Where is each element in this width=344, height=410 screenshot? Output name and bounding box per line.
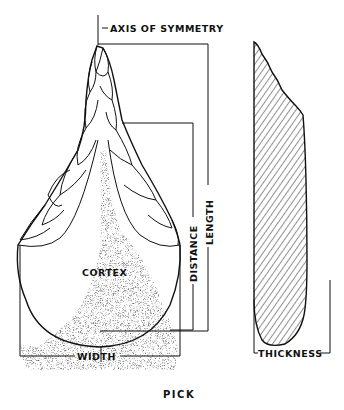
pick-diagram: AXIS OF SYMMETRY [0, 0, 344, 410]
axis-label: AXIS OF SYMMETRY [110, 23, 224, 34]
cortex-label: CORTEX [82, 267, 127, 278]
thickness-label: THICKNESS [258, 348, 323, 359]
pick-face-view: CORTEX [17, 46, 183, 370]
length-label: LENGTH [204, 199, 215, 245]
cortex-area [18, 125, 183, 370]
figure-caption: PICK [163, 389, 195, 400]
width-label: WIDTH [77, 351, 116, 362]
flake-scars [20, 46, 178, 245]
pick-side-profile [254, 42, 307, 345]
distance-label: DISTANCE [188, 225, 199, 282]
axis-of-symmetry: AXIS OF SYMMETRY [98, 15, 224, 45]
